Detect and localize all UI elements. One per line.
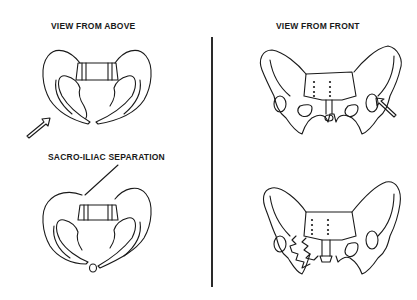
- pelvis-front-fractured: [0, 0, 417, 300]
- obturator-foramen-right: [345, 243, 358, 257]
- fracture-line: [290, 236, 318, 268]
- sacral-foramina: [311, 219, 329, 235]
- acetabulum-left: [274, 236, 286, 252]
- pelvis-outline-fractured: [264, 182, 401, 274]
- pubic-symphysis: [320, 240, 332, 262]
- acetabulum-right: [366, 231, 378, 249]
